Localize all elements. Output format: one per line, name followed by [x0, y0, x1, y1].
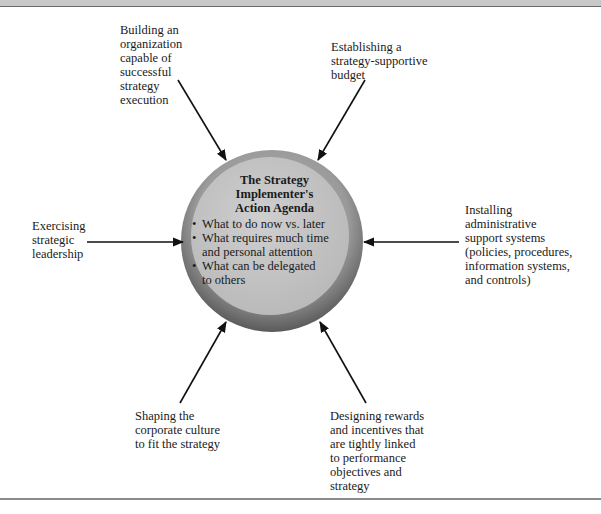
node-corporate-culture: Shaping the corporate culture to fit the…	[135, 409, 220, 451]
action-agenda-bullets: What to do now vs. later What requires m…	[192, 217, 357, 287]
arrow-top-right	[318, 80, 365, 160]
node-budget: Establishing a strategy-supportive budge…	[331, 40, 428, 82]
bullet-item: What to do now vs. later	[192, 217, 357, 231]
bottom-border	[0, 498, 601, 500]
node-rewards-incentives: Designing rewards and incentives that ar…	[330, 409, 424, 493]
node-support-systems: Installing administrative support system…	[465, 203, 572, 287]
arrow-bottom-right	[320, 322, 366, 403]
action-agenda-title: The Strategy Implementer's Action Agenda	[192, 173, 357, 215]
arrow-bottom-left	[180, 322, 226, 403]
action-agenda: The Strategy Implementer's Action Agenda…	[192, 173, 357, 287]
arrow-top-left	[178, 80, 226, 160]
node-building-organization: Building an organization capable of succ…	[120, 23, 182, 107]
node-strategic-leadership: Exercising strategic leadership	[32, 219, 85, 261]
bullet-item: What can be delegated to others	[192, 259, 357, 287]
bullet-item: What requires much time and personal att…	[192, 231, 357, 259]
